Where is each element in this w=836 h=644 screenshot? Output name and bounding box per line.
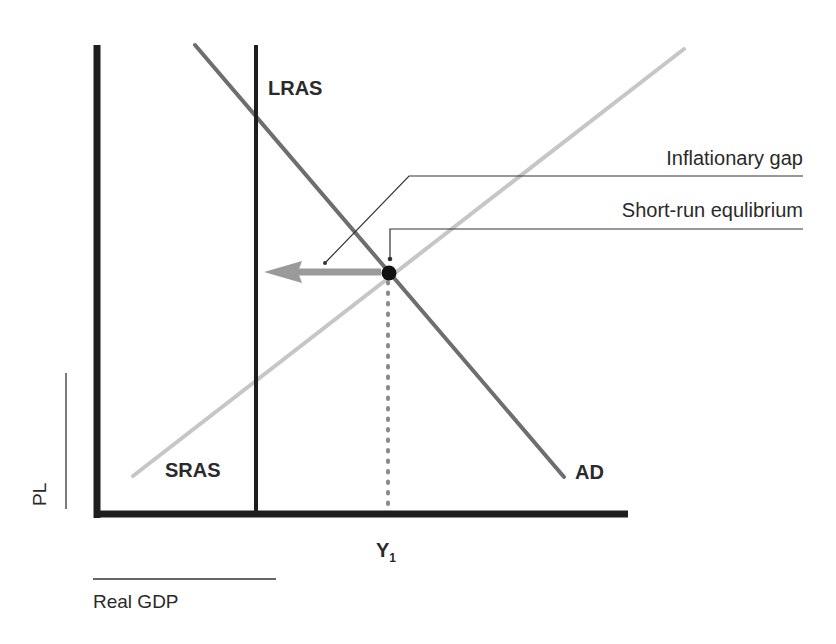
ad-curve	[195, 45, 564, 477]
ad-label: AD	[575, 461, 604, 483]
equilibrium-point	[382, 266, 397, 281]
sras-curve	[133, 49, 684, 476]
x-axis-label: Real GDP	[93, 591, 179, 612]
as-ad-diagram: LRAS AD SRAS Y1 Inflationary gap Short-r…	[0, 0, 836, 644]
sras-label: SRAS	[165, 459, 221, 481]
lras-label: LRAS	[268, 77, 322, 99]
short-run-equilibrium-label: Short-run equlibrium	[622, 199, 803, 221]
y-axis-label: PL	[29, 483, 50, 506]
left-arrow-icon	[264, 261, 381, 283]
short-run-equilibrium-leader	[388, 229, 803, 261]
y1-label: Y1	[376, 539, 396, 565]
inflationary-gap-label: Inflationary gap	[666, 147, 803, 169]
